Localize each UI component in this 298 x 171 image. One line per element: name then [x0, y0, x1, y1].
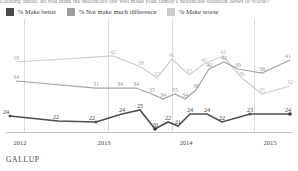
x-axis-labels: 2012 2013 2014 2015 [0, 139, 298, 151]
data-label-make-better: 22 [219, 115, 225, 121]
data-label-make-better: 22 [165, 115, 171, 121]
data-label-make-better: 25 [137, 103, 143, 109]
data-label-not-make-much-difference: 35 [172, 87, 178, 93]
data-label-not-make-much-difference: 38 [259, 66, 265, 72]
data-label-make-worse: 42 [110, 49, 116, 55]
x-tick-2013: 2013 [97, 139, 110, 146]
data-label-not-make-much-difference: 35 [149, 87, 155, 93]
data-label-make-better: 23 [247, 107, 253, 113]
series-line-not-make-much-difference [16, 60, 290, 99]
data-label-make-better: 24 [204, 107, 210, 113]
chart-legend: % Make better % Not make much difference… [6, 6, 292, 17]
data-label-not-make-much-difference: 34 [117, 81, 123, 87]
data-label-not-make-much-difference: 34 [13, 74, 19, 80]
chart-plot-area: 2422222425202221242422232434313434353435… [0, 19, 298, 138]
data-label-make-worse: 41 [169, 52, 175, 58]
legend-swatch-make-worse [167, 8, 175, 16]
data-label-not-make-much-difference: 34 [182, 92, 188, 98]
data-label-not-make-much-difference: 34 [160, 92, 166, 98]
data-label-not-make-much-difference: 41 [285, 53, 291, 59]
legend-swatch-make-better [6, 8, 14, 16]
data-label-not-make-much-difference: 31 [93, 81, 99, 87]
data-label-make-worse: 42 [220, 49, 226, 55]
data-label-make-better: 21 [175, 119, 181, 125]
gallup-logo: GALLUP [6, 155, 40, 164]
legend-label-make-better: % Make better [18, 8, 57, 15]
legend-item-make-better[interactable]: % Make better [6, 8, 56, 16]
data-label-make-better: 22 [53, 114, 59, 120]
legend-label-make-worse: % Make worse [179, 8, 219, 15]
legend-label-not-make-much-difference: % Not make much difference [79, 8, 157, 15]
legend-item-make-worse[interactable]: % Make worse [167, 8, 218, 16]
data-label-make-better: 22 [89, 115, 95, 121]
cropped-question-text: Looking ahead, do you think the healthca… [0, 0, 298, 5]
data-label-make-better: 20 [152, 122, 158, 128]
data-label-make-worse: 36 [239, 71, 245, 77]
data-label-make-worse: 40 [201, 57, 207, 63]
legend-swatch-not-make-much-difference [67, 8, 75, 16]
data-label-make-worse: 35 [259, 87, 265, 93]
legend-item-not-make-much-difference[interactable]: % Not make much difference [67, 8, 156, 16]
x-tick-2012: 2012 [13, 139, 26, 146]
data-label-make-better: 24 [119, 107, 125, 113]
data-label-make-worse: 38 [13, 55, 19, 61]
data-label-not-make-much-difference: 39 [235, 62, 241, 68]
chart-series-lines [0, 19, 298, 138]
data-label-make-worse: 35 [154, 71, 160, 77]
data-label-make-better: 24 [285, 107, 291, 113]
x-tick-2014: 2014 [179, 139, 192, 146]
data-label-make-better: 24 [187, 107, 193, 113]
data-label-make-worse: 32 [287, 79, 293, 85]
data-label-not-make-much-difference: 36 [193, 83, 199, 89]
data-label-make-worse: 38 [138, 60, 144, 66]
data-label-make-worse: 37 [186, 68, 192, 74]
cropped-question-header: Looking ahead, do you think the healthca… [0, 0, 298, 5]
data-label-make-better: 24 [3, 109, 9, 115]
data-label-not-make-much-difference: 34 [133, 81, 139, 87]
x-tick-2015: 2015 [263, 139, 276, 146]
data-label-not-make-much-difference: 42 [221, 55, 227, 61]
